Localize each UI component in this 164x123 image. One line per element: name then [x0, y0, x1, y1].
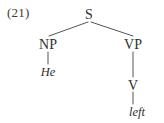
tree-terminal-he: He — [41, 66, 56, 79]
tree-node-np: NP — [39, 38, 57, 52]
tree-terminal-left: left — [129, 106, 145, 119]
tree-node-v: V — [128, 79, 138, 93]
tree-node-vp: VP — [124, 38, 142, 52]
edge-s-np — [49, 22, 88, 36]
edge-s-vp — [91, 22, 133, 36]
tree-node-s: S — [85, 8, 93, 22]
figure-container: (21) S NP VP V He left — [0, 0, 164, 123]
